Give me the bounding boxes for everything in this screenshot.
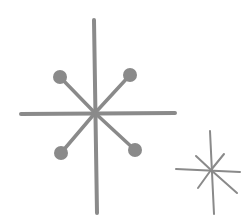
star-diagonal-ray bbox=[198, 170, 211, 188]
star-dot bbox=[123, 68, 137, 82]
star-horizontal-ray bbox=[176, 169, 240, 172]
large-atomic-star-icon bbox=[21, 20, 175, 213]
star-dot bbox=[53, 70, 67, 84]
star-diagonal-ray bbox=[61, 113, 95, 153]
starburst-illustration bbox=[0, 0, 249, 216]
star-dot bbox=[128, 143, 142, 157]
star-diagonal-ray bbox=[211, 154, 224, 170]
star-diagonal-ray bbox=[60, 77, 95, 113]
star-diagonal-ray bbox=[95, 113, 135, 150]
star-diagonal-ray bbox=[196, 156, 211, 170]
star-diagonal-ray bbox=[211, 170, 237, 193]
small-sparkle-star-icon bbox=[176, 131, 240, 214]
star-diagonal-ray bbox=[95, 75, 130, 113]
star-dot bbox=[54, 146, 68, 160]
